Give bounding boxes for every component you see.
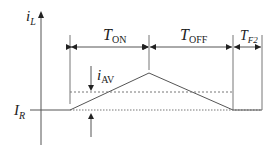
arrow-left-icon [71, 44, 77, 50]
arrow-up-icon [88, 113, 94, 119]
interval-label-tf2: TF2 [240, 28, 258, 45]
arrow-left-icon [234, 44, 240, 50]
inductor-current-diagram: iL IR TON TOFF TF2 i [0, 0, 277, 160]
y-axis-label: iL [26, 8, 36, 27]
y-axis [38, 11, 44, 145]
interval-label-toff: TOFF [180, 26, 208, 45]
dimension-ton [71, 44, 148, 50]
average-current-label: iAV [97, 67, 115, 85]
arrow-down-icon [88, 85, 94, 91]
arrow-right-icon [142, 44, 148, 50]
arrow-right-icon [226, 44, 232, 50]
reference-level-label: IR [13, 102, 25, 121]
interval-label-ton: TON [103, 26, 126, 45]
arrow-left-icon [150, 44, 156, 50]
y-axis-arrow-icon [38, 11, 44, 18]
